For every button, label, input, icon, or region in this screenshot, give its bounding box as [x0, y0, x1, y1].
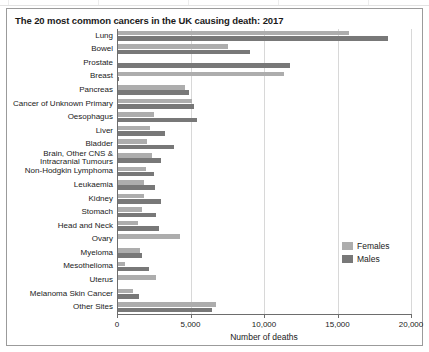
chart-category-row: Pancreas	[117, 83, 411, 97]
bar-males	[118, 226, 159, 231]
bar-females	[118, 153, 152, 158]
chart-category-row: Uterus	[117, 273, 411, 287]
bar-females	[118, 99, 192, 104]
chart-category-row: Bowel	[117, 43, 411, 57]
bar-females	[118, 180, 144, 185]
bar-females	[118, 31, 349, 36]
category-label-line: Prostate	[83, 58, 113, 67]
chart-category-row: Kidney	[117, 192, 411, 206]
chart-legend: Females Males	[342, 239, 390, 265]
bar-females	[118, 234, 180, 239]
bar-males	[118, 50, 250, 55]
category-label: Liver	[96, 127, 113, 135]
bar-females	[118, 85, 185, 90]
x-tick-label: 10,000	[252, 320, 276, 329]
x-tick-mark	[411, 314, 412, 318]
bar-males	[118, 158, 161, 163]
category-label-line: Intracranial Tumours	[40, 158, 113, 166]
category-label: Non-Hodgkin Lymphoma	[25, 167, 113, 175]
category-label: Leukaemia	[74, 181, 113, 189]
category-label: Kidney	[89, 194, 113, 202]
bar-males	[118, 90, 189, 95]
x-tick-mark	[264, 314, 265, 318]
chart-category-row: Liver	[117, 124, 411, 138]
chart-category-row: Lung	[117, 29, 411, 43]
category-label-line: Stomach	[81, 207, 113, 216]
chart-category-row: Oesophagus	[117, 110, 411, 124]
bar-males	[118, 131, 165, 136]
category-label: Uterus	[89, 276, 113, 284]
bar-males	[118, 172, 154, 177]
chart-category-row: Leukaemia	[117, 178, 411, 192]
bar-females	[118, 207, 142, 212]
category-label-line: Bowel	[91, 44, 113, 53]
category-label-line: Kidney	[89, 193, 113, 202]
legend-label-males: Males	[357, 254, 380, 264]
bar-females	[118, 221, 138, 226]
category-label-line: Liver	[96, 126, 113, 135]
category-label-line: Head and Neck	[58, 221, 113, 230]
legend-swatch-males-icon	[342, 255, 353, 263]
bar-males	[118, 185, 155, 190]
category-label-line: Other Sites	[73, 302, 113, 311]
bar-females	[118, 72, 284, 77]
bar-males	[118, 104, 194, 109]
chart-category-row: Brain, Other CNS &Intracranial Tumours	[117, 151, 411, 165]
cropped-top-strip	[0, 0, 429, 6]
category-label: Bladder	[85, 140, 113, 148]
chart-category-row: Bladder	[117, 138, 411, 152]
chart-category-row: Cancer of Unknown Primary	[117, 97, 411, 111]
x-tick-mark	[191, 314, 192, 318]
category-label-line: Mesothelioma	[63, 261, 113, 270]
chart-category-row: Prostate	[117, 56, 411, 70]
chart-category-row: Head and Neck	[117, 219, 411, 233]
category-label-line: Oesophagus	[68, 112, 113, 121]
category-label-line: Non-Hodgkin Lymphoma	[25, 166, 113, 175]
bar-females	[118, 275, 156, 280]
bar-males	[118, 308, 212, 313]
x-axis-title: Number of deaths	[117, 332, 411, 342]
bar-females	[118, 248, 140, 253]
category-label-line: Lung	[95, 31, 113, 40]
category-label-line: Uterus	[89, 275, 113, 284]
x-tick-mark	[117, 314, 118, 318]
category-label: Melanoma Skin Cancer	[30, 289, 113, 297]
legend-item-females: Females	[342, 239, 390, 252]
x-tick-label: 0	[115, 320, 119, 329]
category-label: Oesophagus	[68, 113, 113, 121]
category-label: Head and Neck	[58, 222, 113, 230]
bar-males	[118, 118, 197, 123]
category-label-line: Cancer of Unknown Primary	[13, 98, 113, 107]
x-tick-label: 5,000	[180, 320, 200, 329]
category-label-line: Breast	[90, 71, 113, 80]
bar-females	[118, 194, 144, 199]
category-label: Myeloma	[81, 249, 113, 257]
bar-females	[118, 262, 125, 267]
bar-males	[118, 77, 119, 82]
category-label: Pancreas	[79, 86, 113, 94]
chart-figure: The 20 most common cancers in the UK cau…	[6, 8, 423, 346]
bar-males	[118, 294, 139, 299]
bar-males	[118, 63, 290, 68]
legend-swatch-females-icon	[342, 242, 353, 250]
x-tick-mark	[338, 314, 339, 318]
category-label-line: Melanoma Skin Cancer	[30, 288, 113, 297]
gridline	[411, 29, 412, 314]
plot-area: 05,00010,00015,00020,000 LungBowelProsta…	[117, 29, 411, 314]
bar-females	[118, 302, 216, 307]
category-label-line: Leukaemia	[74, 180, 113, 189]
category-label: Lung	[95, 32, 113, 40]
category-label: Other Sites	[73, 303, 113, 311]
category-label: Stomach	[81, 208, 113, 216]
chart-category-row: Melanoma Skin Cancer	[117, 287, 411, 301]
chart-category-row: Stomach	[117, 205, 411, 219]
category-label-line: Pancreas	[79, 85, 113, 94]
legend-label-females: Females	[357, 241, 390, 251]
category-label: Cancer of Unknown Primary	[13, 99, 113, 107]
category-label: Prostate	[83, 59, 113, 67]
category-label: Brain, Other CNS &Intracranial Tumours	[40, 150, 113, 167]
category-label: Mesothelioma	[63, 262, 113, 270]
bar-females	[118, 44, 228, 49]
chart-category-row: Breast	[117, 70, 411, 84]
bar-males	[118, 213, 156, 218]
